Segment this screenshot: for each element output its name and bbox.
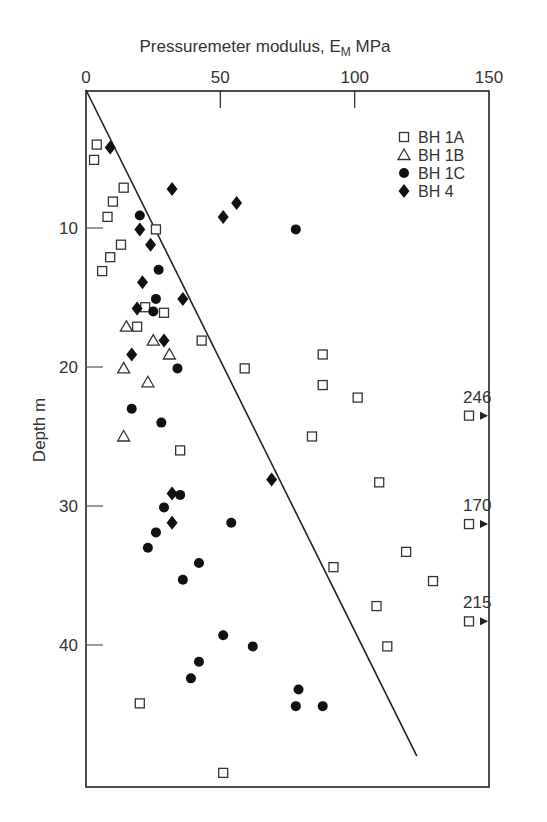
- filled-circle-marker: [135, 210, 145, 220]
- open-square-marker: [318, 350, 327, 359]
- open-square-marker: [383, 642, 392, 651]
- filled-circle-marker: [172, 363, 182, 373]
- trend-line: [86, 90, 417, 756]
- open-square-marker: [465, 411, 474, 420]
- filled-circle-marker: [194, 558, 204, 568]
- open-square-marker: [116, 240, 125, 249]
- open-triangle-marker: [118, 362, 130, 373]
- open-triangle-marker: [163, 348, 175, 359]
- filled-circle-marker: [291, 701, 301, 711]
- filled-circle-marker: [151, 527, 161, 537]
- legend-item: BH 1A: [400, 129, 465, 146]
- filled-circle-marker: [291, 224, 301, 234]
- off-scale-value-label: 215: [463, 593, 491, 612]
- filled-diamond-marker: [126, 347, 137, 361]
- filled-diamond-marker: [218, 210, 229, 224]
- x-tick-label: 0: [81, 68, 90, 87]
- off-scale-point: 215: [463, 593, 491, 626]
- open-square-marker: [329, 563, 338, 572]
- filled-circle-marker: [175, 490, 185, 500]
- open-square-marker: [106, 253, 115, 262]
- legend-item: BH 1B: [398, 147, 464, 164]
- filled-diamond-marker: [137, 275, 148, 289]
- y-axis-ticks: 10203040: [59, 219, 103, 655]
- open-square-marker: [176, 446, 185, 455]
- open-triangle-marker: [147, 335, 159, 346]
- off-scale-value-label: 170: [463, 496, 491, 515]
- filled-circle-marker: [159, 502, 169, 512]
- legend-item: BH 4: [399, 183, 454, 200]
- open-square-marker: [151, 225, 160, 234]
- open-square-marker: [92, 140, 101, 149]
- filled-circle-marker: [294, 684, 304, 694]
- open-square-marker: [353, 393, 362, 402]
- open-square-marker: [90, 155, 99, 164]
- legend-label: BH 1B: [418, 147, 464, 164]
- open-square-marker: [465, 617, 474, 626]
- open-square-marker: [98, 267, 107, 276]
- filled-circle-marker: [178, 575, 188, 585]
- open-square-marker: [108, 197, 117, 206]
- filled-circle-marker: [151, 294, 161, 304]
- off-scale-point: 170: [463, 496, 491, 529]
- x-tick-label: 100: [340, 68, 368, 87]
- open-square-marker: [307, 432, 316, 441]
- open-square-marker: [372, 602, 381, 611]
- series-bh-1a: [90, 140, 438, 777]
- filled-diamond-marker: [399, 184, 410, 198]
- filled-diamond-marker: [145, 238, 156, 252]
- filled-circle-marker: [218, 630, 228, 640]
- open-triangle-marker: [120, 321, 132, 332]
- x-axis-title: Pressuremeter modulus, EM MPa: [140, 37, 391, 59]
- filled-circle-marker: [318, 701, 328, 711]
- filled-circle-marker: [148, 306, 158, 316]
- open-square-marker: [318, 381, 327, 390]
- open-square-marker: [141, 303, 150, 312]
- open-square-marker: [402, 547, 411, 556]
- filled-circle-marker: [226, 518, 236, 528]
- filled-circle-marker: [186, 673, 196, 683]
- filled-circle-marker: [154, 265, 164, 275]
- series-bh-4: [105, 140, 277, 529]
- open-square-marker: [375, 478, 384, 487]
- open-triangle-marker: [142, 376, 154, 387]
- y-tick-label: 40: [59, 636, 78, 655]
- filled-diamond-marker: [167, 486, 178, 500]
- filled-circle-marker: [399, 168, 409, 178]
- legend-item: BH 1C: [399, 165, 465, 182]
- filled-diamond-marker: [167, 516, 178, 530]
- legend: BH 1ABH 1BBH 1CBH 4: [398, 129, 465, 200]
- legend-label: BH 1C: [418, 165, 465, 182]
- filled-diamond-marker: [134, 222, 145, 236]
- y-axis-title: Depth m: [30, 398, 49, 462]
- open-square-marker: [133, 322, 142, 331]
- filled-diamond-marker: [266, 473, 277, 487]
- off-scale-annotations: 246170215: [463, 388, 491, 626]
- open-triangle-marker: [398, 149, 410, 160]
- open-square-marker: [219, 768, 228, 777]
- filled-diamond-marker: [105, 140, 116, 154]
- filled-circle-marker: [194, 657, 204, 667]
- open-square-marker: [240, 364, 249, 373]
- data-points: [90, 140, 438, 777]
- open-square-marker: [119, 183, 128, 192]
- filled-circle-marker: [143, 543, 153, 553]
- x-tick-label: 150: [475, 68, 503, 87]
- legend-label: BH 4: [418, 183, 454, 200]
- open-square-marker: [160, 308, 169, 317]
- open-square-marker: [465, 520, 474, 529]
- filled-diamond-marker: [167, 182, 178, 196]
- off-scale-value-label: 246: [463, 388, 491, 407]
- legend-label: BH 1A: [418, 129, 465, 146]
- pressuremeter-depth-chart: Pressuremeter modulus, EM MPa Depth m 05…: [0, 0, 547, 822]
- filled-diamond-marker: [231, 196, 242, 210]
- trend-line-segment: [86, 90, 417, 756]
- open-triangle-marker: [118, 431, 130, 442]
- open-square-marker: [103, 212, 112, 221]
- filled-circle-marker: [156, 418, 166, 428]
- open-square-marker: [197, 336, 206, 345]
- filled-circle-marker: [248, 641, 258, 651]
- open-square-marker: [400, 133, 409, 142]
- series-bh-1c: [127, 210, 328, 711]
- filled-circle-marker: [127, 404, 137, 414]
